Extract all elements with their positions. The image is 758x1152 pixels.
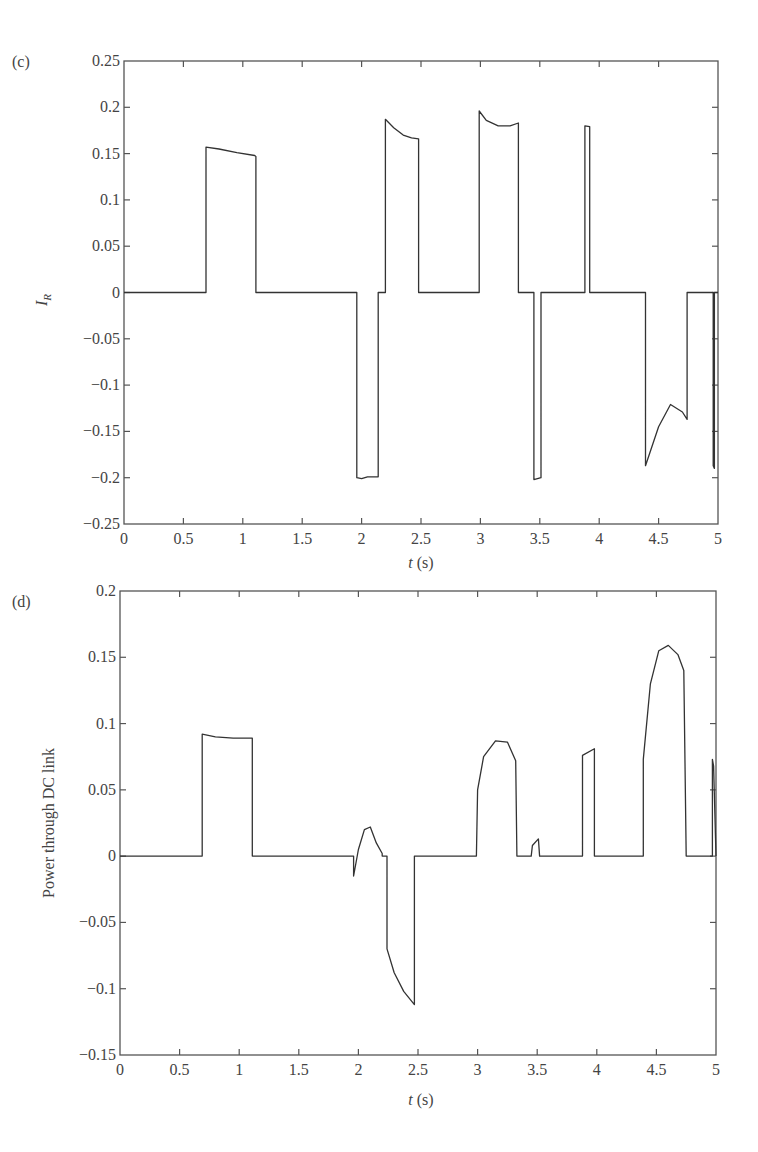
y-tick-label: −0.1 bbox=[91, 376, 120, 393]
y-tick-label: 0.15 bbox=[92, 145, 120, 162]
y-tick-label: −0.2 bbox=[91, 469, 120, 486]
y-tick-label: −0.25 bbox=[83, 515, 120, 532]
plot-frame bbox=[120, 591, 716, 1055]
x-tick-label: 3 bbox=[474, 1061, 482, 1078]
x-tick-label: 2 bbox=[354, 1061, 362, 1078]
y-tick-label: 0.1 bbox=[96, 715, 116, 732]
y-tick-label: −0.15 bbox=[83, 422, 120, 439]
x-tick-label: 1 bbox=[235, 1061, 243, 1078]
y-tick-label: 0.05 bbox=[88, 781, 116, 798]
y-tick-label: −0.1 bbox=[87, 980, 116, 997]
ir-trace bbox=[124, 111, 718, 480]
x-tick-label: 1 bbox=[239, 530, 247, 547]
y-tick-label: −0.05 bbox=[83, 330, 120, 347]
x-tick-label: 4.5 bbox=[646, 1061, 666, 1078]
x-tick-label: 0.5 bbox=[173, 530, 193, 547]
x-tick-label: 3 bbox=[476, 530, 484, 547]
y-tick-label: 0.15 bbox=[88, 648, 116, 665]
chart-panel-c: (c) 00.511.522.533.544.550.250.20.150.10… bbox=[12, 52, 722, 572]
x-tick-label: 5 bbox=[714, 530, 722, 547]
x-tick-label: 0.5 bbox=[170, 1061, 190, 1078]
x-tick-label: 1.5 bbox=[292, 530, 312, 547]
y-tick-label: 0.25 bbox=[92, 52, 120, 69]
x-tick-label: 4.5 bbox=[649, 530, 669, 547]
y-tick-label: 0 bbox=[112, 284, 120, 301]
y-tick-label: 0.05 bbox=[92, 237, 120, 254]
axes-c: 00.511.522.533.544.550.250.20.150.10.050… bbox=[83, 52, 722, 547]
x-tick-label: 2.5 bbox=[408, 1061, 428, 1078]
x-tick-label: 4 bbox=[593, 1061, 601, 1078]
y-axis-title-c: IR bbox=[33, 294, 53, 307]
x-tick-label: 3.5 bbox=[527, 1061, 547, 1078]
x-tick-label: 2.5 bbox=[411, 530, 431, 547]
x-axis-title-c: t (s) bbox=[408, 554, 433, 572]
power-trace bbox=[120, 645, 716, 1004]
chart-panel-d: (d) 00.511.522.533.544.550.20.150.10.050… bbox=[12, 582, 720, 1109]
x-tick-label: 4 bbox=[595, 530, 603, 547]
y-tick-label: 0.2 bbox=[96, 582, 116, 599]
x-tick-label: 0 bbox=[116, 1061, 124, 1078]
x-tick-label: 5 bbox=[712, 1061, 720, 1078]
y-tick-label: 0.1 bbox=[100, 191, 120, 208]
x-tick-label: 2 bbox=[358, 530, 366, 547]
y-tick-label: 0.2 bbox=[100, 98, 120, 115]
y-tick-label: −0.15 bbox=[79, 1046, 116, 1063]
y-axis-title-d: Power through DC link bbox=[40, 748, 58, 898]
y-tick-label: 0 bbox=[108, 847, 116, 864]
x-tick-label: 0 bbox=[120, 530, 128, 547]
panel-label-c: (c) bbox=[12, 53, 30, 71]
axes-d: 00.511.522.533.544.550.20.150.10.050−0.0… bbox=[79, 582, 720, 1078]
x-tick-label: 1.5 bbox=[289, 1061, 309, 1078]
x-tick-label: 3.5 bbox=[530, 530, 550, 547]
panel-label-d: (d) bbox=[12, 593, 31, 611]
figure: (c) 00.511.522.533.544.550.250.20.150.10… bbox=[0, 0, 758, 1152]
y-tick-label: −0.05 bbox=[79, 913, 116, 930]
x-axis-title-d: t (s) bbox=[408, 1091, 433, 1109]
